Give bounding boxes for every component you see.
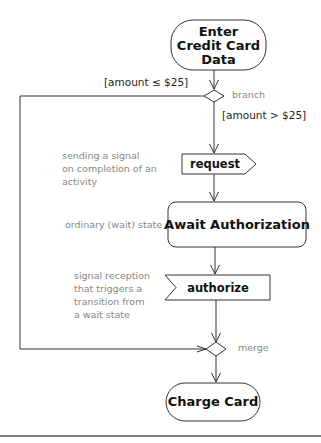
receive-note-line-3: transition from bbox=[74, 296, 144, 307]
enter-line-1: Enter bbox=[199, 24, 239, 39]
request-signal-send: request bbox=[182, 154, 256, 174]
receive-note-line-4: a wait state bbox=[74, 309, 130, 320]
guard-high-amount: [amount > $25] bbox=[222, 109, 306, 121]
enter-line-2: Credit Card bbox=[177, 38, 260, 53]
branch-label: branch bbox=[232, 89, 265, 100]
await-authorization-state: Await Authorization bbox=[164, 202, 310, 247]
activity-diagram: Enter Credit Card Data branch [amount ≤ … bbox=[0, 0, 321, 443]
await-label: Await Authorization bbox=[164, 217, 310, 232]
send-note-line-1: sending a signal bbox=[62, 150, 140, 161]
charge-label: Charge Card bbox=[168, 394, 259, 409]
enter-line-3: Data bbox=[201, 52, 236, 67]
send-note-line-2: on completion of an bbox=[62, 163, 157, 174]
request-label: request bbox=[190, 157, 241, 171]
receive-note-line-2: that triggers a bbox=[74, 283, 142, 294]
merge-label: merge bbox=[238, 342, 269, 353]
merge-diamond bbox=[206, 342, 226, 356]
guard-low-amount: [amount ≤ $25] bbox=[104, 76, 188, 88]
receive-note-line-1: signal reception bbox=[74, 270, 150, 281]
wait-note: ordinary (wait) state bbox=[65, 219, 162, 230]
enter-credit-card-data-action: Enter Credit Card Data bbox=[171, 20, 266, 70]
charge-card-action: Charge Card bbox=[166, 383, 260, 421]
branch-diamond bbox=[204, 90, 224, 102]
authorize-signal-receive: authorize bbox=[165, 275, 270, 300]
authorize-label: authorize bbox=[187, 281, 249, 295]
send-note-line-3: activity bbox=[62, 176, 97, 187]
